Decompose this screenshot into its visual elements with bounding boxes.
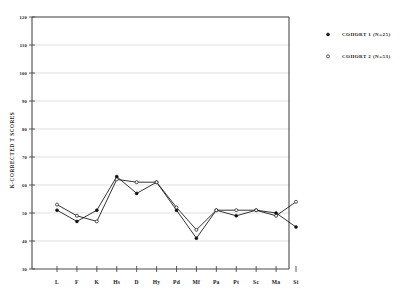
legend-label-1: COHORT 1 (N=25) (342, 32, 391, 37)
data-point (195, 237, 198, 240)
legend-marker-1 (327, 33, 330, 36)
legend-marker-2 (327, 55, 330, 58)
chart-container: 12011010090807060504030 LFKHsDHyPdMfPaPt… (0, 0, 416, 303)
data-point (95, 220, 98, 223)
x-axis-tick-label: Pa (213, 279, 220, 285)
y-axis: 12011010090807060504030 (20, 15, 36, 272)
data-point (235, 209, 238, 212)
x-axis-tick-label: Ma (272, 279, 281, 285)
x-axis-tick-label: K (95, 279, 100, 285)
x-axis-tick-label: Pd (173, 279, 181, 285)
data-point (95, 209, 98, 212)
data-point (175, 206, 178, 209)
x-axis-tick-label: Mf (193, 279, 201, 285)
data-point (215, 209, 218, 212)
data-point (195, 228, 198, 231)
data-point (56, 203, 59, 206)
data-point (255, 209, 258, 212)
data-point (155, 181, 158, 184)
y-axis-tick-label: 100 (20, 71, 28, 76)
y-axis-tick-label: 60 (22, 183, 27, 188)
y-axis-tick-label: 50 (22, 211, 27, 216)
series-line (57, 179, 296, 229)
grid-lines (32, 17, 289, 241)
data-point (235, 214, 238, 217)
y-axis-tick-label: 40 (22, 239, 27, 244)
data-point (56, 209, 59, 212)
data-point (75, 220, 78, 223)
data-point (295, 226, 298, 229)
x-axis-tick-label: Hs (113, 279, 121, 285)
series-2 (56, 178, 298, 231)
x-axis-tick-label: L (55, 279, 59, 285)
y-axis-tick-label: 90 (22, 99, 27, 104)
y-axis-tick-label: 70 (22, 155, 27, 160)
y-axis-tick-label: 80 (22, 127, 27, 132)
data-point (135, 192, 138, 195)
x-axis-tick-label: Si (293, 279, 298, 285)
y-axis-title: K-CORRECTED T SCORES (9, 112, 15, 189)
x-axis-tick-label: Pt (233, 279, 239, 285)
data-point (75, 214, 78, 217)
x-axis-tick-label: F (75, 279, 79, 285)
data-point (115, 178, 118, 181)
y-axis-tick-label: 30 (22, 267, 27, 272)
data-point (295, 200, 298, 203)
x-axis-tick-label: D (134, 279, 138, 285)
x-axis-tick-label: Sc (253, 279, 259, 285)
legend-label-2: COHORT 2 (N=53) (342, 54, 391, 59)
data-point (275, 214, 278, 217)
chart-legend: COHORT 1 (N=25)COHORT 2 (N=53) (327, 32, 391, 59)
x-axis-tick-label: Hy (153, 279, 161, 285)
y-axis-tick-label: 110 (20, 43, 28, 48)
mmpi-profile-chart: 12011010090807060504030 LFKHsDHyPdMfPaPt… (0, 0, 416, 303)
data-point (135, 181, 138, 184)
y-axis-tick-label: 120 (20, 15, 28, 20)
x-axis: LFKHsDHyPdMfPaPtScMaSi (32, 17, 299, 285)
